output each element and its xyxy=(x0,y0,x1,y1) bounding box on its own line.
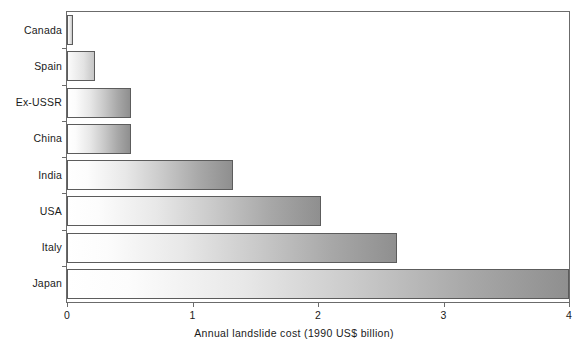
bar-china xyxy=(67,124,131,154)
bar-canada xyxy=(67,15,73,45)
bar-row xyxy=(67,269,569,299)
y-axis-label-italy: Italy xyxy=(0,242,62,253)
y-axis-label-india: India xyxy=(0,170,62,181)
bar-row xyxy=(67,88,569,118)
y-axis-label-spain: Spain xyxy=(0,61,62,72)
bar-row xyxy=(67,233,569,263)
bar-row xyxy=(67,196,569,226)
y-axis-tick xyxy=(62,230,66,231)
bars-layer xyxy=(67,12,569,302)
y-axis-tick xyxy=(62,85,66,86)
y-axis-label-usa: USA xyxy=(0,206,62,217)
x-axis-tick xyxy=(318,303,319,307)
x-axis-tick xyxy=(444,303,445,307)
bar-row xyxy=(67,51,569,81)
y-axis-tick xyxy=(62,266,66,267)
y-axis-label-canada: Canada xyxy=(0,25,62,36)
x-axis-tick-label: 0 xyxy=(64,309,70,321)
bar-india xyxy=(67,160,233,190)
bar-ex-ussr xyxy=(67,88,131,118)
y-axis-label-japan: Japan xyxy=(0,278,62,289)
bar-usa xyxy=(67,196,321,226)
x-axis-tick-label: 3 xyxy=(441,309,447,321)
bar-italy xyxy=(67,233,397,263)
y-axis-tick xyxy=(62,157,66,158)
x-axis-title: Annual landslide cost (1990 US$ billion) xyxy=(0,327,588,339)
y-axis-tick xyxy=(62,48,66,49)
x-axis-tick xyxy=(193,303,194,307)
y-axis-label-ex-ussr: Ex-USSR xyxy=(0,97,62,108)
y-axis-tick xyxy=(62,121,66,122)
bar-row xyxy=(67,160,569,190)
bar-row xyxy=(67,124,569,154)
bar-spain xyxy=(67,51,95,81)
y-axis-label-china: China xyxy=(0,133,62,144)
landslide-cost-bar-chart: CanadaSpainEx-USSRChinaIndiaUSAItalyJapa… xyxy=(0,0,588,353)
y-axis-tick xyxy=(62,193,66,194)
x-axis-tick xyxy=(67,303,68,307)
y-axis-category-labels: CanadaSpainEx-USSRChinaIndiaUSAItalyJapa… xyxy=(0,12,62,302)
bar-row xyxy=(67,15,569,45)
x-axis-tick-label: 4 xyxy=(566,309,572,321)
x-axis-tick xyxy=(569,303,570,307)
x-axis-tick-label: 2 xyxy=(315,309,321,321)
bar-japan xyxy=(67,269,569,299)
x-axis-tick-label: 1 xyxy=(190,309,196,321)
